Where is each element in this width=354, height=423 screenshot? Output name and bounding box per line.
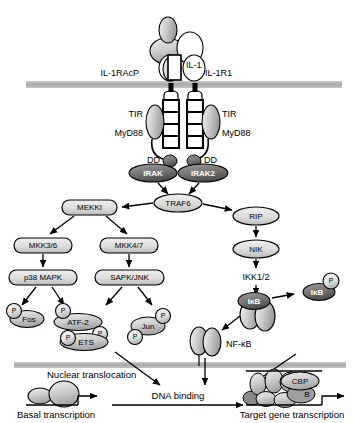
- traf6-node: TRAF6: [154, 194, 202, 212]
- basal-transcription-label: Basal transcription: [17, 409, 95, 420]
- nik-node: NIK: [233, 240, 279, 258]
- tir-right-label: TIR: [222, 109, 237, 119]
- fos-label: Fos: [22, 315, 35, 324]
- mkk36-label: MKK3/6: [29, 241, 58, 250]
- il1-ligand-label: IL-1: [186, 60, 202, 70]
- atf2-label: ATF-2: [67, 318, 89, 327]
- il1r1-label: IL-1R1: [205, 68, 232, 78]
- ikb-bound-label: IκB: [248, 297, 261, 306]
- traf6-label: TRAF6: [165, 199, 191, 208]
- mkk47-label: MKK4/7: [115, 241, 144, 250]
- il1-ligand-box: [168, 55, 181, 80]
- p38-label: p38 MAPK: [24, 273, 63, 282]
- basal-factor-small: [28, 388, 52, 404]
- tir-left-label: TIR: [129, 109, 144, 119]
- pathway-diagram-canvas: IL-1 IL-1RAcP IL-1R1 TIR TIR MyD88 MyD88: [0, 0, 354, 423]
- mekki-branch-arrows: [50, 216, 127, 234]
- nuclear-translocation-label: Nuclear translocation: [47, 369, 136, 380]
- irak-label: IRAK: [143, 169, 163, 178]
- enhanceosome-b-label: B: [304, 390, 309, 399]
- myd88-right-label: MyD88: [222, 128, 251, 138]
- phospho-badge-jun-b-label: P: [133, 333, 138, 340]
- mapk-to-tf-arrows: [22, 287, 152, 305]
- ikk-label: IKK1/2: [242, 272, 269, 282]
- phospho-badge-ikb-label: P: [329, 277, 334, 284]
- p38-node: p38 MAPK: [9, 270, 77, 285]
- sapk-jnk-label: SAPK/JNK: [110, 273, 149, 282]
- plasma-membrane: [26, 81, 342, 88]
- nfkb-free-subunit-right: [203, 328, 221, 356]
- mekki-label: MEKKI: [77, 203, 102, 212]
- il1-signaling-diagram: IL-1 IL-1RAcP IL-1R1 TIR TIR MyD88 MyD88: [0, 0, 354, 423]
- irak2-label: IRAK2: [191, 169, 216, 178]
- phospho-badge-fos-label: P: [12, 307, 17, 314]
- mkk36-node: MKK3/6: [14, 238, 72, 253]
- enhanceosome-complex: B CBP: [243, 369, 344, 408]
- phospho-badge-ets-label: P: [66, 334, 71, 341]
- tir-ladder-left: [163, 100, 179, 148]
- phospho-badge-atf2-a-label: P: [61, 307, 66, 314]
- dna-binding-label: DNA binding: [152, 390, 205, 401]
- jun-label: Jun: [142, 322, 155, 331]
- target-gene-transcription-label: Target gene transcription: [240, 409, 345, 420]
- basal-transcription-complex: [26, 381, 97, 407]
- phospho-badge-jun-a-label: P: [161, 312, 166, 319]
- sapk-jnk-node: SAPK/JNK: [95, 270, 164, 285]
- irak-to-traf6-arrows: [158, 183, 199, 194]
- ikb-free-label: IκB: [311, 288, 324, 297]
- il1racp-label: IL-1RAcP: [100, 68, 139, 78]
- myd88-left-label: MyD88: [114, 128, 143, 138]
- mekki-node: MEKKI: [62, 200, 117, 215]
- receptor-complex: IL-1 IL-1RAcP IL-1R1 TIR TIR MyD88 MyD88: [100, 17, 250, 182]
- basal-transcription-arrow: [78, 396, 97, 405]
- tf-jun: Jun P P: [128, 309, 171, 345]
- myd88-left-domain: [146, 105, 164, 139]
- tf-fos: Fos P: [7, 304, 45, 328]
- nfkb-free-dimer: NF-κB: [190, 327, 252, 356]
- nfkb-ikb-complex: IκB: [238, 293, 275, 332]
- nfkb-label: NF-κB: [226, 339, 252, 349]
- nik-label: NIK: [249, 245, 263, 254]
- rip-label: RIP: [249, 212, 262, 221]
- basal-factor-large: [49, 381, 79, 407]
- ets-label: ETS: [78, 338, 94, 347]
- cytoplasmic-loop-right: [188, 91, 202, 100]
- nfkb-release-arrow: [222, 316, 240, 330]
- rip-node: RIP: [233, 207, 279, 225]
- myd88-right-domain: [202, 105, 220, 139]
- enhanceosome-subunit-5: [256, 392, 276, 407]
- ikb-free-node: IκB P: [303, 273, 339, 301]
- target-gene-transcription-arrow: [322, 396, 344, 405]
- receptor-top-domain: [159, 17, 177, 43]
- mkk47-node: MKK4/7: [100, 238, 158, 253]
- cytoplasmic-loop-left: [164, 91, 178, 100]
- nuclear-membrane: [14, 362, 346, 368]
- ikb-release-arrow: [272, 294, 294, 298]
- cbp-label: CBP: [292, 377, 308, 386]
- tir-ladder-right: [187, 100, 203, 148]
